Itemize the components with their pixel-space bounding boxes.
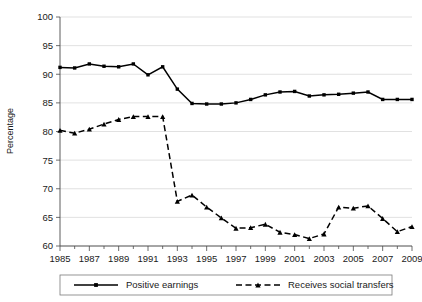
data-point [190,102,193,105]
series-layer [57,62,414,241]
data-point [102,65,105,68]
x-tick-label: 2005 [343,253,364,264]
data-point [278,90,281,93]
data-point [264,93,267,96]
x-tick-label: 1987 [79,253,100,264]
x-tick-label: 1997 [225,253,246,264]
x-tick-label: 1991 [137,253,158,264]
data-point [410,98,413,101]
y-tick-label: 85 [42,97,53,108]
data-point [132,62,135,65]
x-tick-label: 1995 [196,253,217,264]
data-point [220,102,223,105]
data-point [293,90,296,93]
y-tick-label: 75 [42,155,53,166]
legend-swatch-marker [94,283,98,287]
legend-label: Positive earnings [126,279,199,290]
series-line [60,117,412,239]
data-point [249,98,252,101]
x-tick-label: 2001 [284,253,305,264]
chart-legend: Positive earningsReceives social transfe… [60,275,394,295]
data-point [381,98,384,101]
data-point [161,65,164,68]
data-point [234,101,237,104]
x-tick-label: 2007 [372,253,393,264]
data-point [352,91,355,94]
data-point [146,73,149,76]
x-tick-marks [60,246,412,251]
y-tick-label: 100 [37,11,53,22]
data-point [205,102,208,105]
series-1 [58,62,413,105]
data-point [58,66,61,69]
data-point [308,94,311,97]
data-point [337,93,340,96]
data-point [396,98,399,101]
y-axis-title: Percentage [5,108,15,154]
legend-label: Receives social transfers [288,279,394,290]
y-tick-label: 80 [42,126,53,137]
data-point [160,114,165,119]
data-point [176,87,179,90]
x-tick-label: 1989 [108,253,129,264]
chart-container: 6065707580859095100 19851987198919911993… [0,0,422,302]
x-tick-label: 1999 [255,253,276,264]
series-line [60,64,412,104]
line-chart: 6065707580859095100 19851987198919911993… [0,0,422,302]
x-tick-label: 2003 [313,253,334,264]
data-point [73,66,76,69]
data-point [189,193,194,198]
x-tick-labels: 1985198719891991199319951997199920012003… [49,253,422,264]
gridlines [60,17,412,246]
x-tick-label: 2009 [401,253,422,264]
data-point [336,205,341,210]
x-tick-label: 1985 [49,253,70,264]
data-point [322,93,325,96]
data-point [88,62,91,65]
y-tick-label: 60 [42,240,53,251]
x-tick-label: 1993 [167,253,188,264]
y-tick-label: 95 [42,40,53,51]
data-point [366,90,369,93]
y-tick-label: 70 [42,183,53,194]
y-tick-label: 65 [42,212,53,223]
series-2 [57,114,414,241]
y-tick-label: 90 [42,69,53,80]
data-point [117,65,120,68]
y-tick-labels: 6065707580859095100 [37,11,53,251]
